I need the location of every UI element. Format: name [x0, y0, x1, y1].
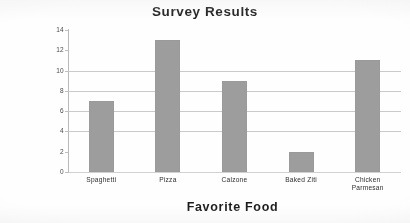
- y-tick-label-14: 14: [44, 26, 64, 33]
- x-axis-title: Favorite Food: [60, 200, 405, 214]
- y-tick-mark-0: [65, 172, 69, 173]
- y-tick-label-8: 8: [44, 87, 64, 94]
- bar: [222, 81, 247, 172]
- y-tick-label-2: 2: [44, 148, 64, 155]
- y-tick-label-10: 10: [44, 67, 64, 74]
- gridline-10: [68, 71, 401, 72]
- bar: [89, 101, 114, 172]
- bar: [289, 152, 314, 172]
- x-tick-label: ChickenParmesan: [328, 176, 408, 192]
- y-tick-label-4: 4: [44, 127, 64, 134]
- chart-title: Survey Results: [0, 4, 410, 19]
- bar: [355, 60, 380, 172]
- x-tick-label-line: Chicken: [328, 176, 408, 184]
- plot-area: [68, 30, 401, 172]
- y-tick-label-12: 12: [44, 46, 64, 53]
- y-tick-label-0: 0: [44, 168, 64, 175]
- x-tick-label-line: Parmesan: [328, 184, 408, 192]
- bar-chart-figure: Survey Results No. of Votes 14121086420 …: [0, 0, 410, 223]
- bar: [155, 40, 180, 172]
- x-axis-line: [68, 172, 401, 173]
- y-tick-label-6: 6: [44, 107, 64, 114]
